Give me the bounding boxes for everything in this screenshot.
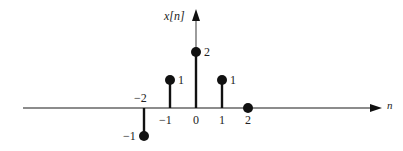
tick-label-0: 0 [193, 114, 199, 126]
y-axis-label: x[n] [164, 10, 185, 22]
stem-n-minus-1 [165, 75, 175, 108]
stem-n-plus-1 [217, 75, 227, 108]
value-label-n-minus-1: 1 [178, 74, 184, 86]
n-axis-arrow-icon [370, 104, 382, 112]
tick-label-plus-1: 1 [219, 114, 225, 126]
value-label-n-plus-1: 1 [230, 74, 236, 86]
value-label-n-0: 2 [204, 46, 210, 58]
tick-label-minus-1: −1 [159, 114, 172, 126]
stem-plot [0, 0, 403, 151]
y-axis-arrow-icon [192, 9, 200, 21]
value-label-n-minus-2: −1 [123, 130, 136, 142]
tick-label-minus-2: −2 [134, 92, 147, 104]
x-axis-label: n [387, 100, 393, 111]
stem-n-minus-2 [139, 108, 149, 141]
tick-label-plus-2: 2 [245, 114, 251, 126]
stem-n-plus-2 [243, 103, 253, 113]
stem-n-0 [191, 47, 201, 108]
